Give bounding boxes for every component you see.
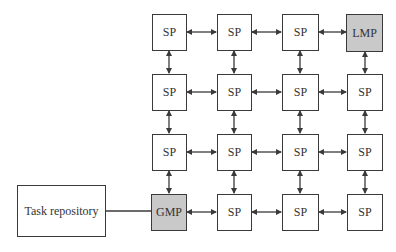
node-sp: SP bbox=[282, 194, 319, 231]
node-sp: SP bbox=[347, 74, 383, 111]
node-sp: SP bbox=[152, 134, 187, 171]
node-lmp: LMP bbox=[346, 14, 383, 52]
node-sp: SP bbox=[282, 74, 319, 111]
node-sp: SP bbox=[217, 134, 252, 171]
node-sp: SP bbox=[152, 74, 187, 111]
node-sp: SP bbox=[152, 14, 187, 51]
node-sp: SP bbox=[282, 14, 319, 51]
node-sp: SP bbox=[217, 74, 252, 111]
node-gmp: GMP bbox=[151, 194, 187, 231]
node-sp: SP bbox=[347, 134, 383, 171]
node-sp: SP bbox=[282, 134, 319, 171]
task-repository-node: Task repository bbox=[17, 185, 106, 237]
node-sp: SP bbox=[217, 14, 252, 51]
node-sp: SP bbox=[347, 194, 383, 231]
node-sp: SP bbox=[217, 194, 252, 231]
